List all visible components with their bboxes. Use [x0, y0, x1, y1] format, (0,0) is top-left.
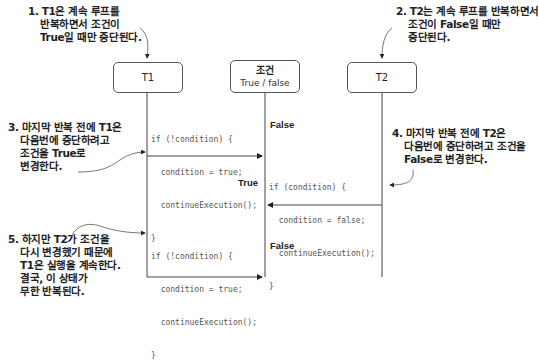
note-4-line: 4. 마지막 반복 전에 T2은 — [392, 127, 526, 140]
participant-t2-label: T2 — [376, 71, 388, 84]
note-1-line: True일 때만 중단된다. — [28, 31, 141, 44]
code-line: } — [151, 350, 257, 361]
code-line: continueExecution(); — [151, 200, 257, 211]
state-false-1: False — [270, 119, 294, 130]
code-line: condition = false; — [269, 215, 375, 226]
note-5-line: 다시 변경했기 때문에 — [8, 246, 121, 259]
note-5-line: 결국, 이 상태가 — [8, 272, 121, 285]
state-false-2: False — [270, 240, 294, 251]
participant-t1-label: T1 — [142, 71, 154, 84]
note-4-line: 다음번에 중단하려고 조건을 — [392, 140, 526, 153]
note-5-line: 무한 반복된다. — [8, 285, 121, 298]
note4-pointer — [390, 170, 413, 185]
code-block-3: if (!condition) { condition = true; cont… — [151, 229, 257, 363]
participant-t2: T2 — [347, 62, 417, 93]
note-5-line: T1은 실행을 계속한다. — [8, 259, 121, 272]
note-2-line: 조건이 False일 때만 — [396, 18, 539, 31]
code-line: if (!condition) { — [151, 134, 257, 145]
note-3-line: 다음번에 중단하려고 — [8, 134, 122, 147]
note-2-line: 중단된다. — [396, 31, 539, 44]
code-line: continueExecution(); — [151, 317, 257, 328]
note-5-line: 5. 하지만 T2가 조건을 — [8, 233, 121, 246]
note-3: 3. 마지막 반복 전에 T1은 다음번에 중단하려고 조건을 True로 변경… — [8, 121, 122, 173]
participant-t1: T1 — [113, 62, 183, 93]
code-line: condition = true; — [151, 284, 257, 295]
note-4-line: False로 변경한다. — [392, 153, 526, 166]
note-5: 5. 하지만 T2가 조건을 다시 변경했기 때문에 T1은 실행을 계속한다.… — [8, 233, 121, 298]
participant-condition-label: 조건 — [256, 64, 274, 77]
participant-condition: 조건 True / false — [230, 60, 300, 93]
note-3-line: 조건을 True로 — [8, 147, 122, 160]
code-line: } — [269, 281, 375, 292]
note-2-line: 2. T2는 계속 루프를 반복하면서 — [396, 5, 539, 18]
code-block-2: if (condition) { condition = false; cont… — [269, 160, 375, 303]
note-3-line: 변경한다. — [8, 160, 122, 173]
note-3-line: 3. 마지막 반복 전에 T1은 — [8, 121, 122, 134]
note-4: 4. 마지막 반복 전에 T2은 다음번에 중단하려고 조건을 False로 변… — [392, 127, 526, 166]
note-2: 2. T2는 계속 루프를 반복하면서 조건이 False일 때만 중단된다. — [396, 5, 539, 44]
note-1-line: 반복하면서 조건이 — [28, 18, 141, 31]
note2-pointer — [382, 28, 392, 58]
note-1: 1. T1은 계속 루프를 반복하면서 조건이 True일 때만 중단된다. — [28, 5, 141, 44]
state-true: True — [238, 177, 258, 188]
participant-condition-sublabel: True / false — [240, 77, 289, 90]
code-line: if (condition) { — [269, 182, 375, 193]
code-line: if (!condition) { — [151, 251, 257, 262]
note-1-line: 1. T1은 계속 루프를 — [28, 5, 141, 18]
